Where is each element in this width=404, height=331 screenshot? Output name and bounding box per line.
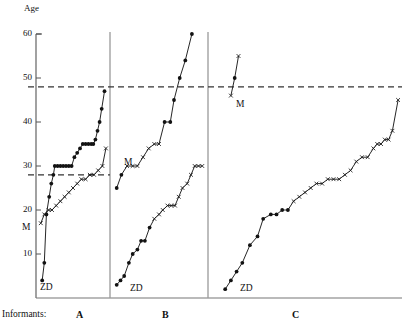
data-point (172, 98, 176, 102)
series-label-B-ZD: ZD (130, 283, 143, 293)
data-point (122, 274, 126, 278)
data-point (73, 155, 77, 159)
data-point (91, 142, 95, 146)
data-point (115, 186, 119, 190)
data-point (47, 195, 51, 199)
y-tick-label-40: 40 (16, 116, 32, 126)
data-point (94, 138, 98, 142)
data-point (115, 283, 119, 287)
data-point (233, 76, 237, 80)
data-point (286, 208, 290, 212)
series-label-C-ZD: ZD (240, 283, 253, 293)
data-point (42, 261, 46, 265)
chart-figure: Age 605040302010 MZDMZDMZD ABC Informant… (0, 0, 404, 331)
data-point (131, 252, 135, 256)
data-point (235, 270, 239, 274)
data-point (275, 213, 279, 217)
series-label-A-ZD: ZD (40, 282, 53, 292)
data-point (139, 239, 143, 243)
data-point (256, 235, 260, 239)
data-point (223, 287, 227, 291)
data-point (52, 173, 56, 177)
data-point (120, 173, 124, 177)
data-point (163, 120, 167, 124)
data-point (240, 261, 244, 265)
data-point (178, 76, 182, 80)
y-tick-label-20: 20 (16, 204, 32, 214)
data-point (96, 129, 100, 133)
panel-label-A: A (76, 309, 83, 320)
series-label-C-M: M (236, 99, 244, 109)
panel-label-B: B (162, 309, 169, 320)
data-point (168, 120, 172, 124)
y-tick-label-60: 60 (16, 28, 32, 38)
data-point (229, 279, 233, 283)
data-point (148, 226, 152, 230)
data-point (183, 59, 187, 63)
series-line-C-ZD (225, 100, 398, 289)
data-point (49, 182, 53, 186)
data-point (75, 151, 79, 155)
data-point (248, 243, 252, 247)
data-point (103, 89, 107, 93)
data-point (136, 248, 140, 252)
data-point (70, 164, 74, 168)
panel-C-plot (28, 54, 402, 291)
data-point (119, 279, 123, 283)
data-point (78, 147, 82, 151)
series-line-A-ZD (42, 91, 104, 280)
series-line-C-M (231, 56, 239, 96)
x-axis-title: Informants: (2, 309, 46, 319)
data-point (261, 217, 265, 221)
data-point (280, 208, 284, 212)
series-label-A-M: M (22, 222, 30, 232)
plot-area (0, 0, 404, 331)
data-point (98, 120, 102, 124)
data-point (100, 107, 104, 111)
data-point (190, 32, 194, 36)
data-point (127, 261, 131, 265)
series-label-B-M: M (124, 157, 132, 167)
data-point (269, 213, 273, 217)
y-tick-label-10: 10 (16, 248, 32, 258)
y-axis-title: Age (24, 3, 39, 13)
y-tick-label-30: 30 (16, 160, 32, 170)
data-point (143, 239, 147, 243)
panel-label-C: C (292, 309, 299, 320)
y-tick-label-50: 50 (16, 72, 32, 82)
series-line-B-ZD (117, 166, 203, 285)
panel-A-plot (28, 89, 110, 282)
